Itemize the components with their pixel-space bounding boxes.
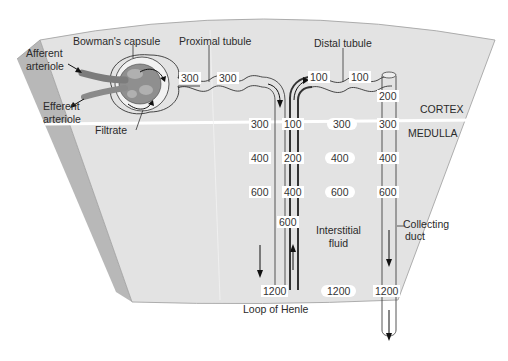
osmolarity-descending-1: 300 (249, 118, 271, 130)
osmolarity-proximal-2: 300 (217, 72, 239, 84)
osmolarity-collecting-3: 400 (377, 152, 399, 164)
osmolarity-interstitial-2: 400 (325, 152, 355, 164)
osmolarity-interstitial-1: 300 (327, 118, 357, 130)
osmolarity-descending-4: 1200 (261, 285, 288, 297)
osmolarity-interstitial-3: 600 (325, 186, 355, 198)
osmolarity-collecting-2: 300 (377, 118, 399, 130)
osmolarity-ascending-2: 200 (282, 152, 304, 164)
osmolarity-descending-2: 400 (249, 152, 271, 164)
osmolarity-ascending-3: 400 (282, 186, 304, 198)
osmolarity-collecting-5: 1200 (373, 285, 400, 297)
osmolarity-descending-3: 600 (249, 186, 271, 198)
osmolarity-collecting-1: 200 (377, 90, 399, 102)
osmolarity-collecting-4: 600 (377, 186, 399, 198)
values-layer: 300 300 100 100 300 400 600 1200 100 200… (0, 0, 508, 361)
osmolarity-distal-2: 100 (349, 71, 371, 83)
osmolarity-ascending-1: 100 (282, 118, 304, 130)
osmolarity-interstitial-4: 1200 (321, 285, 356, 297)
osmolarity-distal-1: 100 (308, 71, 330, 83)
osmolarity-proximal-1: 300 (179, 72, 201, 84)
osmolarity-ascending-4: 600 (277, 216, 299, 228)
